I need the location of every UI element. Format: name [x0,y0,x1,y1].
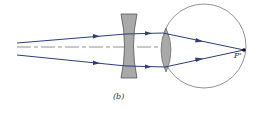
figure-caption: (b) [113,92,124,101]
myopia-correction-diagram [0,0,258,113]
focal-point-label: P' [234,51,242,60]
concave-corrective-lens [121,14,137,78]
arrow-icon [145,65,152,69]
arrow-icon [93,34,100,39]
focal-point-on-retina [242,48,246,52]
arrow-icon [145,31,152,35]
eyeball [162,4,246,88]
arrow-icon [195,58,203,63]
arrow-icon [93,61,100,65]
arrow-icon [195,38,203,43]
